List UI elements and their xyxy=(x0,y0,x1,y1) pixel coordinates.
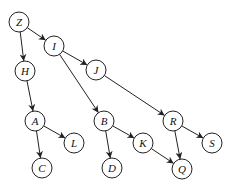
edge-b-k xyxy=(113,126,135,138)
node-label: H xyxy=(20,65,30,77)
node-b: B xyxy=(94,111,114,131)
edge-h-a xyxy=(27,81,33,111)
node-label: Z xyxy=(16,16,23,28)
node-h: H xyxy=(15,61,35,81)
node-d: D xyxy=(102,158,122,178)
node-q: Q xyxy=(172,159,192,179)
directed-graph: ZIHJALCBKDRSQ xyxy=(0,0,233,192)
node-label: Q xyxy=(178,163,186,175)
edge-a-l xyxy=(44,126,66,138)
node-label: B xyxy=(101,115,108,127)
node-i: I xyxy=(44,36,64,56)
node-label: S xyxy=(209,137,215,149)
node-l: L xyxy=(64,133,84,153)
edge-k-q xyxy=(151,149,173,164)
edge-r-q xyxy=(175,131,180,159)
node-r: R xyxy=(163,111,183,131)
node-label: L xyxy=(70,137,77,149)
edge-z-i xyxy=(27,28,46,41)
node-a: A xyxy=(25,111,45,131)
node-label: K xyxy=(138,137,147,149)
graph-canvas: ZIHJALCBKDRSQ xyxy=(0,0,233,192)
edge-r-s xyxy=(182,126,204,138)
node-label: A xyxy=(31,115,39,127)
edge-z-h xyxy=(20,32,24,61)
node-s: S xyxy=(202,133,222,153)
node-label: C xyxy=(38,162,46,174)
node-label: D xyxy=(107,162,116,174)
edge-j-r xyxy=(104,76,164,116)
node-z: Z xyxy=(9,12,29,32)
edge-b-d xyxy=(106,131,111,158)
node-c: C xyxy=(32,158,52,178)
edge-a-c xyxy=(36,131,40,158)
node-k: K xyxy=(133,133,153,153)
node-label: R xyxy=(169,115,177,127)
edge-i-j xyxy=(63,51,88,65)
node-j: J xyxy=(86,60,106,80)
